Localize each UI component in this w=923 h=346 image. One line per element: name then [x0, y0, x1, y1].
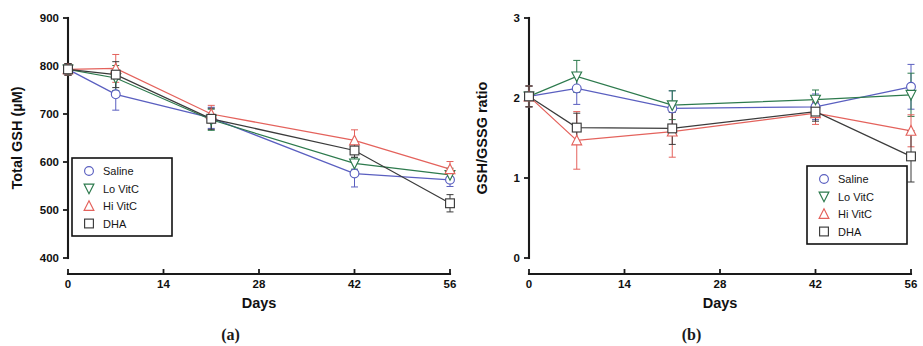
legend-marker-dha — [85, 219, 94, 228]
y-tick-label: 800 — [40, 60, 59, 72]
y-axis-title: Total GSH (µM) — [9, 86, 25, 189]
x-tick-label: 0 — [526, 278, 532, 290]
y-tick-label: 400 — [40, 252, 59, 264]
x-tick-label: 42 — [348, 278, 361, 290]
panel-caption: (b) — [461, 326, 922, 344]
legend-label: Saline — [103, 165, 134, 177]
x-tick-label: 0 — [65, 278, 71, 290]
series-line — [68, 68, 450, 169]
y-tick-label: 2 — [514, 92, 520, 104]
x-tick-label: 28 — [714, 278, 727, 290]
panel-caption: (a) — [0, 326, 461, 344]
y-tick-label: 700 — [40, 108, 59, 120]
x-tick-label: 56 — [905, 278, 918, 290]
data-point-marker — [350, 146, 359, 155]
legend-marker-saline — [85, 167, 94, 176]
legend-label: Lo VitC — [838, 191, 874, 203]
y-tick-label: 500 — [40, 204, 59, 216]
legend-label: Saline — [838, 173, 869, 185]
data-point-marker — [668, 124, 677, 133]
data-point-marker — [572, 84, 581, 93]
legend-marker-saline — [820, 175, 829, 184]
figure-container: 400500600700800900Total GSH (µM)01428425… — [0, 0, 923, 346]
chart-legend: SalineLo VitCHi VitCDHA — [807, 166, 907, 244]
x-tick-label: 14 — [157, 278, 170, 290]
x-axis-title: Days — [242, 295, 277, 311]
x-axis-title: Days — [703, 295, 738, 311]
data-point-marker — [350, 169, 359, 178]
data-point-marker — [446, 199, 455, 208]
data-point-marker — [572, 123, 581, 132]
legend-label: Hi VitC — [103, 200, 137, 212]
legend-label: Hi VitC — [838, 208, 872, 220]
chart-legend: SalineLo VitCHi VitCDHA — [72, 158, 172, 236]
legend-label: Lo VitC — [103, 183, 139, 195]
data-point-marker — [811, 107, 820, 116]
legend-label: DHA — [838, 226, 862, 238]
y-tick-label: 1 — [514, 172, 521, 184]
chart-svg: 0123GSH/GSSG ratio014284256DaysSalineLo … — [461, 0, 922, 346]
x-tick-label: 42 — [809, 278, 822, 290]
data-point-marker — [207, 114, 216, 123]
data-point-marker — [64, 65, 73, 74]
legend-label: DHA — [103, 218, 127, 230]
chart-panel-b: 0123GSH/GSSG ratio014284256DaysSalineLo … — [461, 0, 922, 346]
x-tick-label: 28 — [253, 278, 266, 290]
series-line — [529, 96, 911, 156]
data-point-marker — [525, 92, 534, 101]
y-tick-label: 900 — [40, 12, 59, 24]
legend-marker-dha — [820, 227, 829, 236]
data-point-marker — [111, 90, 120, 99]
y-axis-title: GSH/GSSG ratio — [474, 81, 490, 194]
data-point-marker — [907, 152, 916, 161]
chart-svg: 400500600700800900Total GSH (µM)01428425… — [0, 0, 461, 346]
x-tick-label: 56 — [444, 278, 457, 290]
data-point-marker — [111, 70, 120, 79]
y-tick-label: 600 — [40, 156, 59, 168]
chart-panel-a: 400500600700800900Total GSH (µM)01428425… — [0, 0, 461, 346]
x-tick-label: 14 — [618, 278, 631, 290]
y-tick-label: 3 — [514, 12, 520, 24]
y-tick-label: 0 — [514, 252, 520, 264]
